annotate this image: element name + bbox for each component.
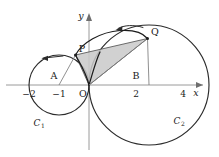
label-circle-c2-group: C 2	[174, 116, 186, 127]
point-dot-q	[146, 37, 149, 40]
label-circle-c2: C	[174, 116, 181, 126]
label-point-a: A	[50, 70, 58, 81]
geometry-figure: A B O P Q −2 −1 2 4 x y C 1 C 2	[0, 0, 219, 157]
label-y-axis: y	[77, 10, 84, 21]
label-origin: O	[79, 88, 87, 99]
label-circle-c2-subscript: 2	[181, 120, 185, 127]
label-point-b: B	[133, 70, 140, 81]
segment-b-to-q	[148, 39, 150, 86]
y-axis-arrowhead	[86, 13, 92, 21]
figure-canvas: A B O P Q −2 −1 2 4 x y C 1 C 2	[0, 0, 219, 157]
arrow-p-group	[42, 56, 64, 61]
label-x-axis: x	[193, 87, 199, 98]
label-circle-c1: C	[34, 118, 41, 128]
tick-label-neg1: −1	[52, 89, 65, 99]
label-circle-c1-subscript: 1	[41, 122, 45, 129]
label-circle-c1-group: C 1	[34, 118, 45, 129]
tick-label-2: 2	[133, 89, 139, 99]
label-point-p: P	[79, 43, 86, 54]
tick-label-neg2: −2	[22, 89, 35, 99]
segment-a-to-p	[59, 55, 76, 85]
point-dot-p	[74, 54, 77, 57]
tick-label-4: 4	[180, 89, 186, 99]
label-point-q: Q	[151, 26, 159, 37]
